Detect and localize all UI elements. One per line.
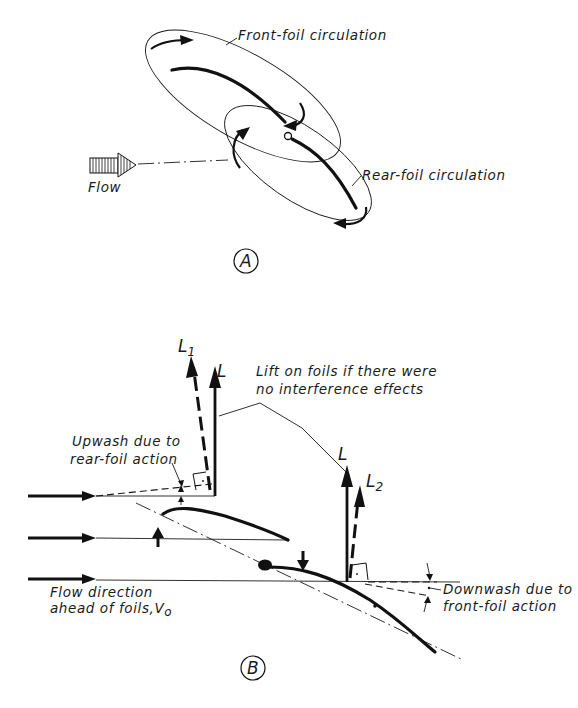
front-foil (172, 68, 285, 122)
figure-a-letter: A (239, 251, 252, 271)
flow-arrow-icon (82, 491, 96, 501)
flow-arrow-icon (82, 574, 96, 584)
upwash-flow-line (96, 484, 212, 496)
rear-foil (292, 139, 356, 208)
front-foil (163, 508, 288, 540)
lift-note-line1: Lift on foils if there were (256, 363, 437, 379)
lift-note-leader (219, 403, 348, 474)
figure-b-letter: B (247, 658, 259, 678)
rear-foil-label: Rear-foil circulation (362, 167, 506, 183)
lift-front-label: L (217, 361, 226, 381)
flow-label: Flow (88, 179, 122, 195)
front-foil-label: Front-foil circulation (238, 27, 387, 43)
downwash-label-line1: Downwash due to (443, 581, 573, 597)
lift-note-line2: no interference effects (256, 381, 424, 397)
lift-l1-label: L1 (178, 336, 195, 359)
flow-direction-line2: ahead of foils,Vo (50, 600, 172, 619)
arrowhead-icon (354, 485, 365, 507)
rear-foil (270, 567, 435, 652)
rear-foil-leading-edge (258, 560, 272, 571)
figure-a: Front-foil circulation Rear-foil circula… (88, 5, 506, 273)
lift-l2-label: L2 (366, 471, 383, 494)
arrowhead-icon (236, 127, 250, 140)
figure-b: L L1 L L2 Li (28, 336, 573, 680)
lift-rear-label: L (338, 444, 347, 464)
flow-arrow-icon (82, 533, 96, 543)
flow-centerline (138, 160, 228, 164)
lift-vector-l2 (350, 500, 358, 578)
upwash-label-line2: rear-foil action (70, 451, 178, 467)
arrowhead-icon (180, 35, 194, 45)
rear-foil-leading-edge (285, 133, 292, 140)
flow-arrow-icon (90, 153, 136, 177)
downwash-flow-line (365, 584, 430, 596)
upwash-label-line1: Upwash due to (72, 433, 181, 449)
tandem-foil-diagram: Front-foil circulation Rear-foil circula… (0, 0, 578, 708)
downwash-label-line2: front-foil action (443, 598, 557, 614)
leader-line (352, 176, 361, 186)
up-arrow-icon (152, 527, 164, 538)
flow-direction-line1: Flow direction (50, 584, 153, 600)
arrowhead-icon (186, 356, 198, 378)
flow-line-middle (96, 538, 288, 540)
